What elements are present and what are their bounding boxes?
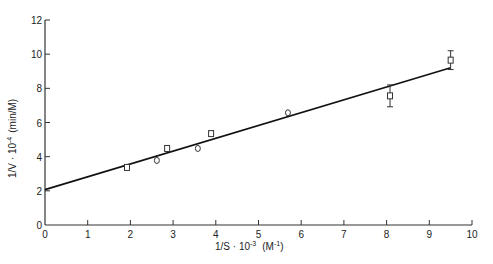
- circle-marker: [285, 110, 290, 116]
- x-tick-label: 6: [298, 229, 304, 240]
- x-tick-label: 8: [384, 229, 390, 240]
- x-tick-label: 3: [170, 229, 176, 240]
- circle-marker: [195, 145, 200, 151]
- square-marker: [448, 57, 453, 63]
- y-tick-label: 12: [31, 15, 43, 26]
- chart-canvas: 012345678910024681012 1/S · 10-3(M-1) 1/…: [0, 0, 493, 264]
- x-tick-label: 10: [466, 229, 478, 240]
- y-axis-title: 1/V · 10-4(min/M): [6, 99, 18, 178]
- x-tick-label: 4: [213, 229, 219, 240]
- y-tick-label: 2: [36, 186, 42, 197]
- x-axis-title: 1/S · 10-3(M-1): [215, 240, 284, 252]
- x-tick-label: 7: [341, 229, 347, 240]
- circle-marker: [154, 157, 159, 163]
- y-tick-label: 8: [36, 83, 42, 94]
- data-points: [124, 51, 453, 171]
- square-marker: [388, 93, 393, 99]
- axes: [45, 20, 472, 225]
- y-tick-label: 10: [31, 49, 43, 60]
- x-tick-label: 2: [128, 229, 134, 240]
- x-tick-label: 9: [427, 229, 433, 240]
- square-marker: [209, 131, 214, 137]
- square-marker: [124, 164, 129, 170]
- y-tick-label: 6: [36, 118, 42, 129]
- x-tick-label: 1: [85, 229, 91, 240]
- y-tick-label: 4: [36, 152, 42, 163]
- y-tick-label: 0: [36, 220, 42, 231]
- x-tick-label: 0: [42, 229, 48, 240]
- x-tick-label: 5: [256, 229, 262, 240]
- square-marker: [165, 145, 170, 151]
- lineweaver-burk-plot: 012345678910024681012 1/S · 10-3(M-1) 1/…: [0, 0, 493, 264]
